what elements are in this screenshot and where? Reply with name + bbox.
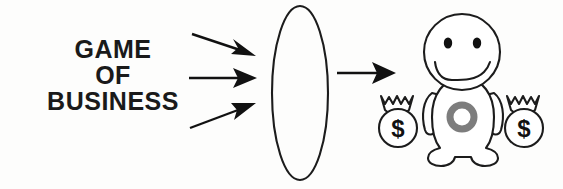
figure-eye-right — [473, 37, 481, 48]
output-arrow — [337, 62, 396, 84]
diagram-svg: GAME OF BUSINESS — [0, 0, 563, 189]
input-arrow-2 — [189, 68, 257, 88]
input-arrow-1 — [192, 34, 256, 56]
input-arrows — [189, 34, 257, 128]
label-line-1: GAME — [75, 35, 152, 63]
input-arrow-1-shaft — [192, 34, 240, 50]
input-arrow-3 — [190, 103, 256, 128]
happy-person-figure — [423, 14, 503, 166]
figure-eye-left — [444, 37, 452, 48]
money-bag-left: $ — [379, 96, 417, 147]
money-bag-right-symbol: $ — [517, 115, 531, 142]
process-ellipse-outline — [272, 6, 328, 180]
input-arrow-3-shaft — [190, 110, 238, 128]
label-line-3: BUSINESS — [47, 87, 179, 115]
game-of-business-label: GAME OF BUSINESS — [47, 35, 179, 115]
money-bag-left-symbol: $ — [391, 115, 405, 142]
figure-body — [428, 78, 498, 166]
money-bag-right: $ — [505, 96, 543, 147]
process-ellipse — [272, 6, 328, 180]
diagram-canvas: GAME OF BUSINESS — [0, 0, 563, 189]
figure-head — [424, 14, 500, 90]
label-line-2: OF — [95, 61, 131, 89]
